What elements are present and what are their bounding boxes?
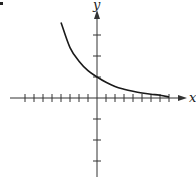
decay-curve xyxy=(61,22,169,97)
x-axis-label: x xyxy=(189,91,196,104)
function-graph xyxy=(0,0,196,177)
y-axis-label: y xyxy=(93,0,100,11)
